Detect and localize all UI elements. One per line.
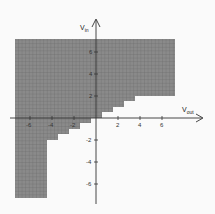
y-tick-label: -4 — [86, 159, 92, 165]
x-tick-label: -4 — [48, 122, 54, 128]
shaded-region — [15, 39, 175, 198]
y-axis-label: Vin — [80, 24, 89, 33]
y-tick-label: -6 — [86, 181, 92, 187]
y-tick-label: -2 — [86, 137, 92, 143]
x-tick-label: 4 — [138, 122, 142, 128]
x-tick-label: -2 — [70, 122, 76, 128]
x-tick-label: 6 — [160, 122, 164, 128]
x-tick-label: -6 — [26, 122, 32, 128]
chart-canvas: -6 -4 -2 2 4 6 -2 -4 -6 2 4 6 Vout Vin — [0, 0, 215, 214]
x-axis-label: Vout — [182, 106, 194, 115]
x-tick-label: 2 — [116, 122, 120, 128]
